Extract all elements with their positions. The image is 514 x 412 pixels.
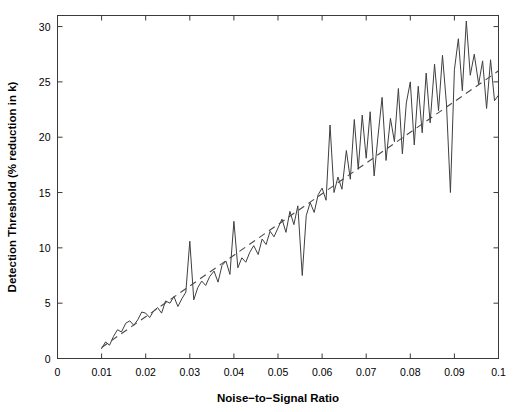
y-tick-label: 10	[39, 242, 51, 254]
x-tick-label: 0.06	[312, 366, 333, 378]
trend-line	[102, 71, 499, 348]
x-axis-title: Noise−to−Signal Ratio	[217, 392, 339, 404]
x-tick-label: 0.03	[180, 366, 201, 378]
y-tick-label: 5	[45, 297, 51, 309]
x-tick-labels: 00.010.020.030.040.050.060.070.080.090.1	[55, 366, 506, 378]
data-line	[102, 21, 499, 349]
y-tick-labels: 051015202530	[39, 21, 51, 365]
y-tick-label: 15	[39, 187, 51, 199]
plot-frame	[58, 16, 499, 359]
x-tick-label: 0.04	[224, 366, 245, 378]
axis-ticks	[58, 16, 499, 359]
y-tick-label: 20	[39, 131, 51, 143]
x-tick-label: 0.05	[268, 366, 289, 378]
x-tick-label: 0.07	[356, 366, 377, 378]
x-tick-label: 0.1	[491, 366, 506, 378]
y-tick-label: 25	[39, 76, 51, 88]
y-tick-label: 30	[39, 21, 51, 33]
x-tick-label: 0.09	[444, 366, 465, 378]
y-axis-title: Detection Threshold (% reduction in k)	[6, 81, 18, 292]
x-tick-label: 0.08	[400, 366, 421, 378]
chart-canvas: 00.010.020.030.040.050.060.070.080.090.1…	[0, 0, 514, 412]
chart-figure: 00.010.020.030.040.050.060.070.080.090.1…	[0, 0, 514, 412]
data-series-group	[102, 21, 499, 349]
x-tick-label: 0.01	[91, 366, 112, 378]
x-tick-label: 0.02	[135, 366, 156, 378]
x-tick-label: 0	[55, 366, 61, 378]
y-tick-label: 0	[45, 353, 51, 365]
